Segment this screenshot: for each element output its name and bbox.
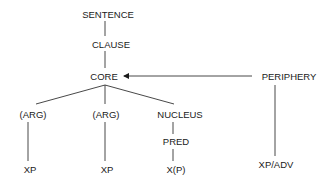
node-nucleus: NUCLEUS: [157, 109, 202, 120]
node-xp-1: XP: [24, 164, 37, 175]
node-arg-2: (ARG): [93, 109, 120, 120]
node-xp-3: X(P): [167, 164, 186, 175]
clause-structure-diagram: SENTENCE CLAUSE CORE PERIPHERY (ARG) (AR…: [0, 0, 333, 185]
node-sentence: SENTENCE: [82, 9, 134, 20]
tree-nodes: SENTENCE CLAUSE CORE PERIPHERY (ARG) (AR…: [20, 9, 317, 175]
node-xp-2: XP: [101, 164, 114, 175]
node-periphery: PERIPHERY: [262, 71, 317, 82]
edge-core-nucleus: [105, 85, 174, 104]
node-arg-1: (ARG): [20, 109, 47, 120]
node-pred: PRED: [163, 136, 190, 147]
node-core: CORE: [90, 71, 117, 82]
node-clause: CLAUSE: [92, 39, 130, 50]
edge-core-arg1: [36, 85, 105, 104]
tree-edges: [28, 21, 275, 161]
node-xp-adv: XP/ADV: [259, 159, 295, 170]
